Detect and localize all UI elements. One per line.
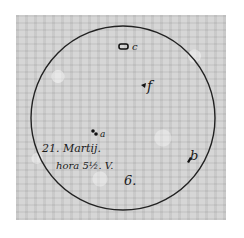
sunspot-a-mark-1 [91,129,95,133]
sunspot-c-mark [119,44,128,49]
sunspot-c-label: c [132,41,138,52]
sunspot-c: c [119,41,138,52]
sunspot-a-mark-2 [94,132,98,136]
date-caption: 21. Martij. [41,142,101,155]
solar-disk-outline [31,26,215,210]
sunspot-f-label: f [146,78,155,94]
sunspot-f-mark [141,83,146,88]
sunspot-b-label: b [190,148,198,163]
sunspot-b: b [187,148,198,163]
sun-disk-drawing: c f a b 21. Martij. hora 5½. V. 6. [0,0,244,238]
time-caption: hora 5½. V. [56,160,114,171]
plate-number: 6. [124,173,136,188]
sunspot-f: f [141,78,155,94]
sunspot-a: a [91,129,105,139]
sunspot-a-label: a [100,129,105,139]
